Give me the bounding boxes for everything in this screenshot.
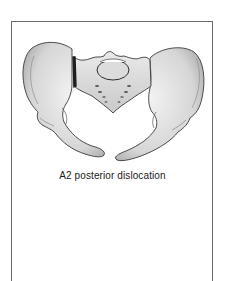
sacrum	[74, 52, 151, 113]
sacroiliac-joint-disruption	[73, 57, 76, 87]
figure-caption: A2 posterior dislocation	[0, 170, 225, 181]
